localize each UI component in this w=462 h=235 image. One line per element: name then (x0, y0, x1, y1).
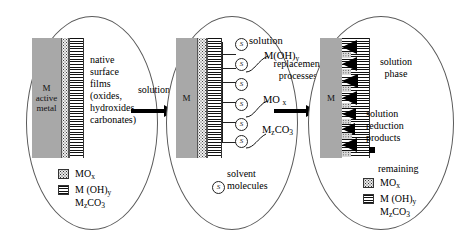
solvent-link-4 (222, 102, 236, 103)
stage-1-layer-stack: M active metal (32, 38, 84, 158)
solvent-link-5 (222, 122, 236, 123)
stage-1-legend: MOx M (OH)y MzCO3 (58, 168, 111, 213)
stage-2-hydroxide-carbonate-layer (207, 38, 222, 158)
remaining-mox-patch-2 (342, 69, 351, 75)
remaining-mox-patch-1 (342, 52, 351, 58)
solvent-tick-3 (222, 68, 223, 82)
stage-3-layer-stack: M (320, 38, 370, 158)
reduction-product-swatch-icon (369, 147, 375, 153)
stage-2-solvent-legend-label-2: molecules (227, 180, 303, 192)
stage-3-metal-block: M (320, 38, 342, 158)
mox-swatch-icon (58, 169, 69, 179)
remaining-mox-patch-6 (342, 133, 352, 139)
legend-item-hydroxide-carbonate-remaining: M (OH)y MzCO3 (363, 193, 416, 220)
stage-3-products-label: solution reduction products (366, 108, 432, 144)
diagram-canvas: M active metal native surface films (oxi… (0, 0, 462, 235)
legend-item-mox: MOx (58, 168, 111, 182)
stage-1-hydroxide-carbonate-layer (69, 38, 84, 158)
remaining-mox-patch-7 (342, 151, 351, 157)
hydroxide-swatch-icon (363, 194, 374, 204)
legend-item-mox-remaining: MOx (363, 177, 416, 191)
arrow-1-shaft (131, 109, 165, 113)
legend-label-mox: MOx (75, 168, 95, 182)
solvent-link-2 (222, 68, 236, 69)
stage-2-solution-label: solution (249, 35, 283, 47)
stage-3-phase-label: solution phase (366, 56, 426, 80)
stage-1-metal-label: M active metal (32, 83, 61, 113)
reduction-product-wedge-7 (342, 138, 357, 152)
legend-item-hydroxide-carbonate: M (OH)y MzCO3 (58, 184, 111, 211)
stage-2-layer-stack: M (176, 38, 222, 158)
solvent-legend-symbol: S (212, 181, 225, 194)
arrow-2-shaft (274, 109, 307, 113)
solvent-link-1 (222, 54, 236, 55)
legend-label-mox-remaining: MOx (380, 177, 400, 191)
remaining-mox-patch-5 (342, 119, 351, 124)
stage-1-metal-block: M active metal (32, 38, 61, 158)
stage-3-legend: MOx M (OH)y MzCO3 (363, 177, 416, 222)
solvent-molecule-3: S (235, 78, 248, 91)
solvent-tick-5 (222, 102, 223, 122)
solvent-tick-6 (222, 122, 223, 142)
diagram-figure: M active metal native surface films (oxi… (0, 0, 462, 235)
stage-3-metal-label: M (320, 93, 342, 103)
solvent-tick-2 (222, 54, 223, 68)
solvent-molecule-1: S (235, 38, 248, 51)
stage-3-remaining-label: remaining (378, 163, 419, 175)
hydroxide-swatch-icon (58, 185, 69, 195)
stage-2-metal-label: M (176, 93, 197, 103)
legend-label-hydroxide-carbonate-remaining: M (OH)y MzCO3 (380, 193, 416, 220)
stage-2-callout-mzco3: MzCO3 (262, 124, 293, 139)
stage-2-solvent-legend-label: solvent (227, 168, 297, 180)
stage-1-mox-layer (61, 38, 69, 158)
remaining-mox-patch-4 (342, 103, 351, 108)
solvent-link-6 (222, 142, 236, 143)
solvent-tick-4 (222, 82, 223, 102)
solvent-link-3 (222, 82, 236, 83)
stage-2-metal-block: M (176, 38, 197, 158)
stage-2-mox-layer (197, 38, 207, 158)
solvent-tick-1 (222, 42, 223, 54)
legend-label-hydroxide-carbonate: M (OH)y MzCO3 (75, 184, 111, 211)
remaining-mox-patch-3 (342, 86, 351, 92)
mox-swatch-icon (363, 178, 374, 188)
